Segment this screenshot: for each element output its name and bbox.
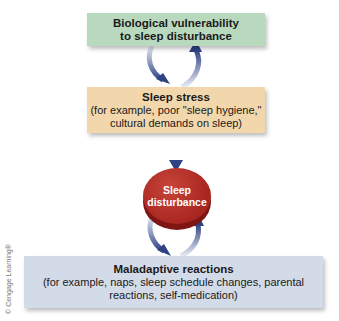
arrow-bio-to-stress bbox=[149, 46, 170, 84]
node-sleep-stress: Sleep stress (for example, poor "sleep h… bbox=[87, 87, 265, 133]
node-title: Sleep stress bbox=[142, 91, 210, 104]
node-body-line1: (for example, poor "sleep hygiene," bbox=[90, 104, 261, 117]
node-maladaptive-reactions: Maladaptive reactions (for example, naps… bbox=[24, 256, 323, 308]
arrow-stress-to-disturbance bbox=[169, 134, 183, 172]
arrow-stress-to-bio bbox=[182, 40, 202, 87]
node-body-line2: cultural demands on sleep) bbox=[110, 117, 242, 130]
node-sleep-disturbance: Sleep disturbance bbox=[143, 168, 211, 230]
node-label-line1: Sleep bbox=[163, 184, 191, 196]
node-body-line2: reactions, self-medication) bbox=[109, 289, 237, 302]
copyright-credit: © Cengage Learning® bbox=[2, 240, 14, 318]
node-body-line1: (for example, naps, sleep schedule chang… bbox=[43, 276, 304, 289]
node-title: Biological vulnerability bbox=[113, 17, 239, 30]
node-biological-vulnerability: Biological vulnerability to sleep distur… bbox=[87, 13, 265, 46]
node-label-line2: disturbance bbox=[147, 196, 207, 208]
credit-text: © Cengage Learning® bbox=[5, 244, 12, 314]
node-title-line2: to sleep disturbance bbox=[120, 30, 232, 43]
disc-top: Sleep disturbance bbox=[143, 168, 211, 224]
node-title: Maladaptive reactions bbox=[113, 263, 233, 276]
